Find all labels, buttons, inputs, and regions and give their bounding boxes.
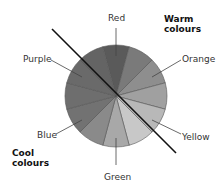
warm-line-2: colours: [164, 24, 201, 34]
warm-line-1: Warm: [164, 14, 201, 24]
label-blue: Blue: [37, 131, 57, 140]
cool-line-1: Cool: [12, 148, 49, 158]
label-yellow: Yellow: [182, 133, 210, 142]
warm-colours-heading: Warm colours: [164, 14, 201, 35]
cool-line-2: colours: [12, 158, 49, 168]
label-purple: Purple: [23, 55, 51, 64]
label-orange: Orange: [182, 55, 215, 64]
colour-wheel: [65, 45, 167, 147]
label-red: Red: [108, 14, 125, 23]
label-green: Green: [104, 173, 131, 182]
cool-colours-heading: Cool colours: [12, 148, 49, 169]
